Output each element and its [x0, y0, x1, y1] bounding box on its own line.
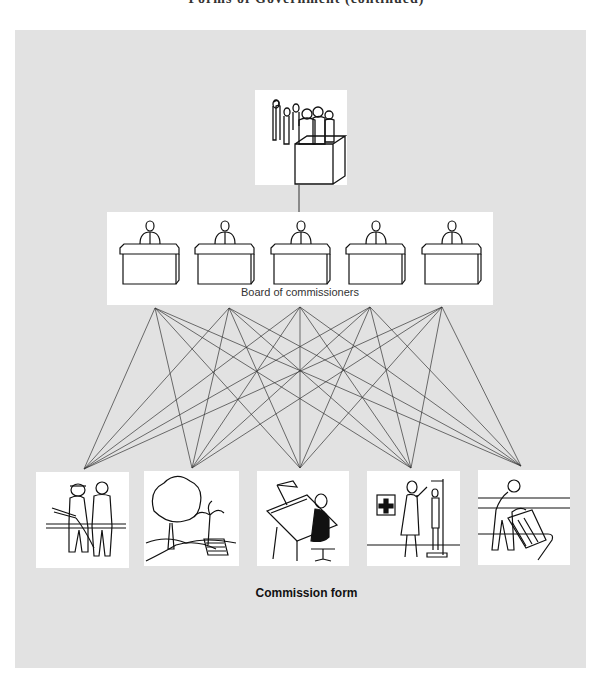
sanitation-icon [478, 470, 570, 565]
department-parks [144, 471, 239, 566]
voters-ballot-box-icon [255, 90, 347, 185]
voters-box [255, 90, 347, 185]
planning-drafting-icon [257, 471, 349, 566]
department-sanitation [478, 470, 570, 565]
commission-form-caption: Commission form [0, 586, 613, 600]
commissioner-1-icon [120, 221, 179, 284]
department-fire-police [36, 472, 129, 568]
health-nurse-icon [367, 471, 460, 566]
commissioners-desks-icon [107, 212, 493, 292]
commissioner-4-icon [346, 221, 405, 284]
board-label: Board of commissioners [107, 286, 493, 298]
commissioner-3-icon [271, 221, 330, 284]
department-health [367, 471, 460, 566]
department-planning [257, 471, 349, 566]
commissioner-2-icon [195, 221, 254, 284]
parks-icon [144, 471, 239, 566]
fire-police-icon [36, 472, 129, 568]
commissioner-5-icon [422, 221, 481, 284]
